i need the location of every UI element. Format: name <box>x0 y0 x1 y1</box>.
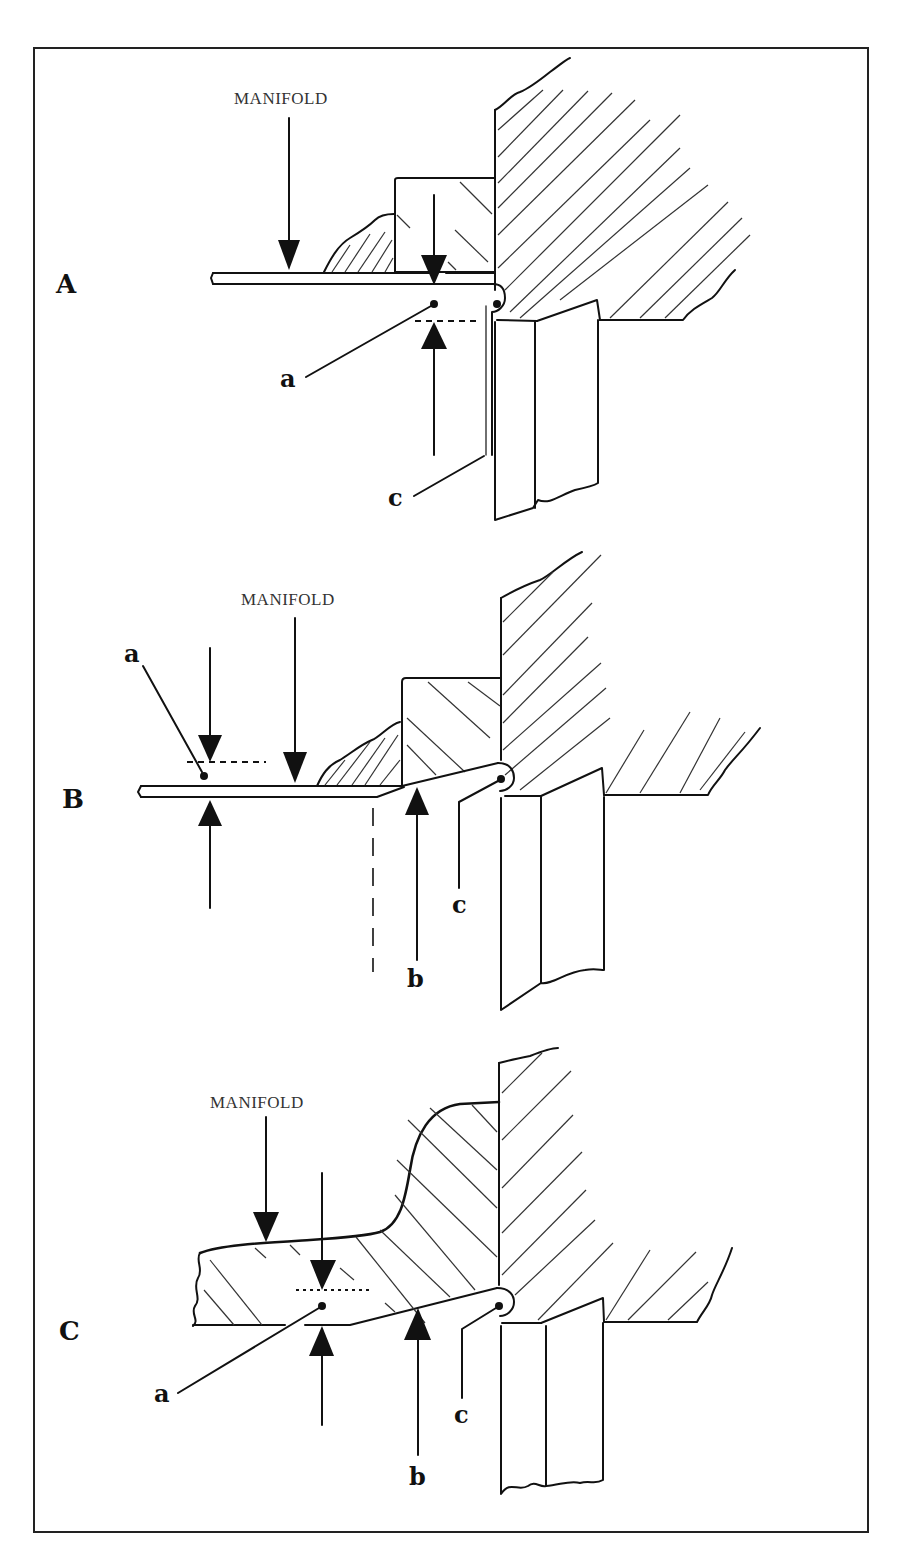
panel-b-leader-a <box>143 666 202 772</box>
figure-canvas: A MANIFOLD <box>0 0 899 1558</box>
panel-b-manifold-label: MANIFOLD <box>241 590 335 609</box>
panel-c-force-arrow-b <box>404 1308 431 1455</box>
panel-c-manifold-label: MANIFOLD <box>210 1093 304 1112</box>
panel-b-force-arrow-up <box>198 800 222 908</box>
panel-a-manifold-label: MANIFOLD <box>234 89 328 108</box>
panel-a-label: A <box>55 269 77 299</box>
panel-c-leader-c <box>462 1308 496 1398</box>
panel-c-manifold-casting <box>193 1102 514 1326</box>
panel-a-leader-a <box>306 306 431 377</box>
panel-b-callout-c: c <box>452 890 467 919</box>
panel-c-label: C <box>59 1316 80 1346</box>
panel-b-port-wall <box>501 797 604 1010</box>
panel-c-force-arrow-up <box>309 1326 334 1425</box>
panel-b-force-arrow-b <box>405 787 429 960</box>
panel-b-gasket-bead <box>317 722 400 786</box>
panel-c-leader-a <box>178 1308 319 1393</box>
panel-b-callout-b: b <box>407 964 424 993</box>
panel-c-port-wall <box>501 1323 603 1494</box>
panel-a-callout-c: c <box>388 483 403 512</box>
panel-a-manifold-plate <box>211 273 505 455</box>
panel-a-force-arrow-up <box>421 322 447 455</box>
panel-a-gasket-bead <box>324 214 394 272</box>
panel-b-label: B <box>62 784 84 814</box>
panel-c: C MANIFOLD <box>59 1048 732 1494</box>
panel-a-cylinder-head <box>495 58 750 321</box>
panel-a-leader-c <box>414 456 484 496</box>
panel-b-force-arrow-down <box>198 648 222 762</box>
panel-c-callout-b: b <box>409 1462 426 1491</box>
panel-a-pivot-c <box>493 300 501 308</box>
panel-c-force-arrow-down <box>310 1173 336 1290</box>
panel-a-callout-a: a <box>280 364 296 393</box>
panel-b-seat-block <box>402 678 501 787</box>
panel-b-callout-a: a <box>124 639 140 668</box>
figure-frame <box>34 48 868 1532</box>
panel-c-callout-a: a <box>154 1379 170 1408</box>
panel-a-manifold-arrow <box>278 118 300 270</box>
panel-b: B MANIFOLD <box>62 552 760 1010</box>
panel-c-cylinder-head <box>499 1048 732 1323</box>
panel-b-manifold-plate <box>138 763 514 797</box>
panel-a: A MANIFOLD <box>55 58 750 520</box>
panel-b-manifold-arrow <box>283 618 307 783</box>
panel-c-callout-c: c <box>454 1400 469 1429</box>
panel-b-leader-c <box>459 781 498 888</box>
panel-c-manifold-arrow <box>253 1117 279 1242</box>
panel-a-port-wall <box>486 306 598 520</box>
panel-b-pivot-a <box>200 772 208 780</box>
panel-b-cylinder-head <box>501 552 760 796</box>
